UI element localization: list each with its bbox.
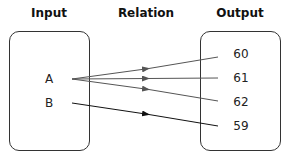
arrow-a-62 bbox=[72, 79, 218, 101]
arrow-a-60 bbox=[72, 57, 218, 79]
relation-arrows bbox=[0, 0, 293, 163]
arrow-b-59 bbox=[72, 103, 218, 126]
arrow-a-61 bbox=[72, 78, 218, 79]
